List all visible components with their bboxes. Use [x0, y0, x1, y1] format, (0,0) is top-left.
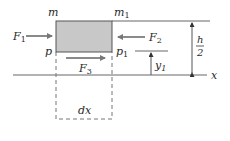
label-p: p	[45, 45, 52, 58]
label-p1: p1	[116, 45, 128, 59]
fluid-element-diagram: m m1 p p1 F1 F2 F3 h 2 y1 x dx	[0, 0, 230, 141]
label-x-axis: x	[211, 69, 218, 82]
label-f1: F1	[12, 30, 26, 44]
label-dx: dx	[78, 104, 92, 117]
label-2: 2	[196, 47, 203, 58]
label-m1: m1	[114, 6, 130, 20]
label-y1: y1	[154, 59, 166, 73]
label-f3: F3	[78, 62, 92, 76]
label-h: h	[197, 34, 203, 45]
fluid-element	[56, 21, 112, 52]
label-m: m	[48, 6, 58, 19]
label-f2: F2	[148, 31, 162, 45]
